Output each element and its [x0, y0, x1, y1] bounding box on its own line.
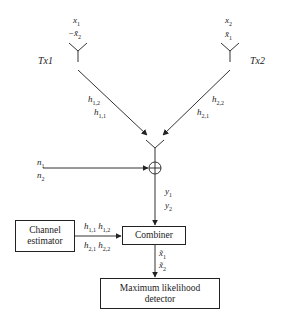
tx1-symbol-1: x1: [73, 15, 80, 29]
ml-detector-block: Maximum likelihood detector: [100, 278, 220, 309]
tx2-antenna-icon: [221, 43, 239, 62]
combined-label-x2: x̃2: [159, 260, 166, 274]
rx-antenna-icon: [146, 140, 164, 162]
ml-detector-line2: detector: [120, 294, 200, 305]
channel-label-h21: h2,1: [197, 107, 209, 121]
adder-icon: [149, 162, 161, 174]
received-label-y2: y2: [165, 200, 172, 214]
noise-label-n2: n2: [37, 170, 45, 184]
channel-label-h11: h1,1: [94, 107, 106, 121]
channel-label-h22: h2,2: [212, 94, 224, 108]
tx1-label: Tx1: [38, 55, 53, 66]
estimate-label-row1: h1,1 h1,2: [84, 221, 110, 235]
channel-estimator-line2: estimator: [27, 236, 62, 247]
tx2-label: Tx2: [250, 55, 265, 66]
tx1-symbol-2: −x̄2: [68, 28, 81, 42]
combiner-label: Combiner: [135, 230, 173, 241]
channel-label-h12: h1,2: [88, 94, 100, 108]
combiner-block: Combiner: [122, 226, 186, 245]
received-label-y1: y1: [165, 186, 172, 200]
estimate-label-row2: h2,1 h2,2: [84, 240, 110, 254]
channel-estimator-block: Channel estimator: [15, 220, 75, 252]
channel-estimator-line1: Channel: [27, 225, 62, 236]
tx1-antenna-icon: [69, 43, 87, 62]
ml-detector-line1: Maximum likelihood: [120, 283, 200, 294]
tx2-symbol-1: x2: [225, 15, 232, 29]
noise-label-n1: n1: [37, 157, 45, 171]
tx2-symbol-2: x̄1: [225, 29, 232, 43]
